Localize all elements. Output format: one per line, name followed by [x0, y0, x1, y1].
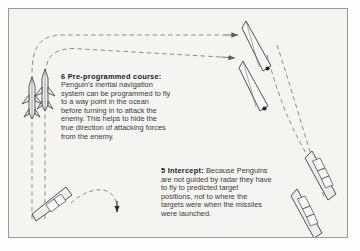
callout-5-lead: Because Penguins	[204, 166, 268, 175]
missile-right	[35, 69, 55, 111]
diagram-frame: 6 Pre-programmed course: Penguin's inert…	[8, 8, 348, 238]
callout-5-line: were launched.	[161, 210, 291, 219]
enemy-ship-top	[242, 21, 271, 71]
callout-5-heading: 5 Intercept:	[161, 166, 204, 175]
launch-ship	[32, 187, 72, 221]
enemy-ship-bottom-right	[291, 189, 322, 237]
enemy-ship-lower-right	[305, 151, 336, 200]
flight-path-arrow-second	[221, 57, 235, 58]
callout-intercept: 5 Intercept: Because Penguins are not gu…	[161, 167, 291, 219]
figure-container: 6 Pre-programmed course: Penguin's inert…	[0, 0, 360, 251]
launch-path	[71, 190, 117, 205]
callout-5-body: 5 Intercept: Because Penguins are not gu…	[161, 167, 291, 219]
missile-left	[22, 77, 42, 119]
callout-pre-programmed-course: 6 Pre-programmed course: Penguin's inert…	[61, 72, 189, 141]
callout-6-line: from the enemy.	[61, 133, 189, 142]
callout-6-body: Penguin's inertial navigation system can…	[61, 81, 189, 141]
